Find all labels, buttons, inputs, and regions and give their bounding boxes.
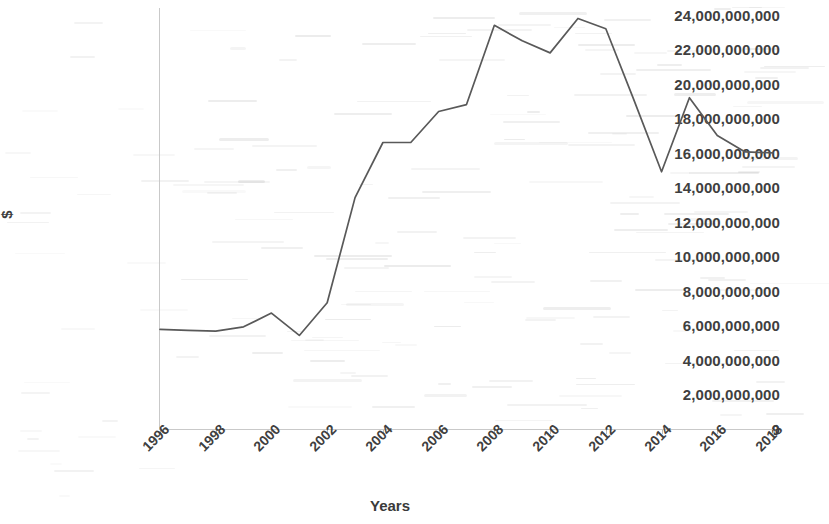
x-axis-title: Years <box>0 497 780 514</box>
